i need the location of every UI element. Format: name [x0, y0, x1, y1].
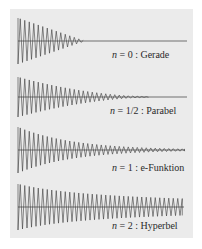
label-gerade: n = 0 : Gerade [112, 50, 169, 60]
n-value: = 2 [120, 220, 133, 231]
label-parabel: n = 1/2 : Parabel [110, 106, 176, 116]
n-symbol: n [112, 220, 117, 231]
n-value: = 1 [120, 162, 133, 173]
n-symbol: n [110, 105, 115, 116]
curve-name: : Parabel [141, 105, 176, 116]
n-value: = 0 [120, 49, 133, 60]
curve-name: : Gerade [135, 49, 169, 60]
n-value: = 1/2 [118, 105, 139, 116]
n-symbol: n [112, 162, 117, 173]
label-e-funktion: n = 1 : e-Funktion [112, 163, 184, 173]
n-symbol: n [112, 49, 117, 60]
curve-name: : Hyperbel [135, 220, 178, 231]
curve-name: : e-Funktion [135, 162, 184, 173]
label-hyperbel: n = 2 : Hyperbel [112, 221, 178, 231]
damped-oscillation-figure [0, 0, 202, 249]
